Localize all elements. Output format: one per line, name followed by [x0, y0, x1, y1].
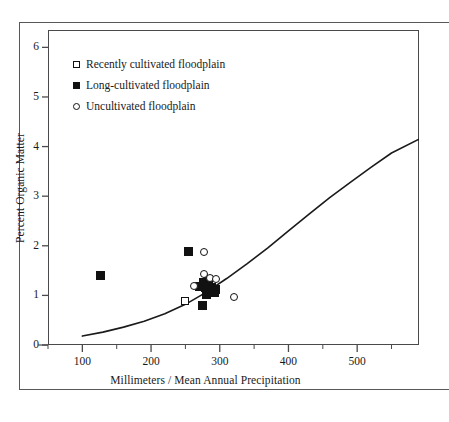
y-tick-label: 0 — [17, 339, 39, 351]
fitted-curve — [82, 139, 419, 336]
data-point — [200, 248, 208, 256]
open-square-icon — [66, 61, 86, 68]
legend-label: Recently cultivated floodplain — [86, 59, 225, 71]
open-circle-icon — [66, 103, 86, 110]
x-tick-label: 200 — [142, 356, 159, 368]
y-tick-label: 1 — [17, 290, 39, 302]
x-tick-label: 400 — [280, 356, 297, 368]
legend-label: Long-cultivated floodplain — [86, 80, 210, 92]
legend-item: Long-cultivated floodplain — [66, 77, 225, 94]
data-point — [202, 290, 211, 299]
data-point — [181, 297, 189, 305]
y-tick-label: 3 — [17, 190, 39, 202]
legend-item: Recently cultivated floodplain — [66, 56, 225, 73]
chart-legend: Recently cultivated floodplainLong-culti… — [66, 56, 225, 119]
open-circle-glyph — [73, 103, 80, 110]
legend-item: Uncultivated floodplain — [66, 98, 225, 115]
y-tick-label: 5 — [17, 91, 39, 103]
filled-square-icon — [66, 82, 86, 89]
x-axis-title: Millimeters / Mean Annual Precipitation — [110, 374, 300, 386]
data-point — [212, 275, 220, 283]
x-tick-label: 500 — [349, 356, 366, 368]
open-square-glyph — [73, 61, 80, 68]
y-tick-label: 2 — [17, 240, 39, 252]
data-point — [230, 293, 238, 301]
x-tick-label: 100 — [74, 356, 91, 368]
data-point — [198, 301, 207, 310]
x-tick-label: 300 — [211, 356, 228, 368]
filled-square-glyph — [73, 82, 80, 89]
y-tick-label: 4 — [17, 141, 39, 153]
legend-label: Uncultivated floodplain — [86, 101, 196, 113]
data-point — [96, 271, 105, 280]
data-point — [184, 247, 193, 256]
y-tick-label: 6 — [17, 42, 39, 54]
